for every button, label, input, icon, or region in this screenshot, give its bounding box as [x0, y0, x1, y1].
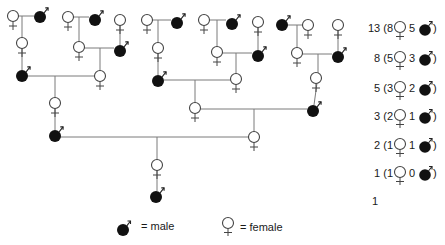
- count-row: 8 (5 3 ): [360, 46, 445, 70]
- close-paren: ): [433, 21, 437, 35]
- female-node: [249, 132, 260, 152]
- close-paren: ): [433, 138, 437, 152]
- female-icon: [17, 38, 28, 49]
- female-node: [333, 20, 344, 40]
- female-icon: [394, 16, 406, 40]
- count-males: 1: [409, 138, 415, 152]
- female-node: [212, 47, 223, 67]
- female-icon: [333, 20, 344, 31]
- female-icon: [249, 132, 260, 143]
- male-icon: [418, 161, 434, 185]
- female-icon: [394, 46, 406, 70]
- count-row: 5 (3 2 ): [360, 76, 445, 100]
- male-icon: [418, 16, 434, 40]
- male-node: [152, 72, 166, 87]
- male-node: [252, 47, 266, 62]
- legend-female-icon: [221, 215, 235, 239]
- individuals: [8, 8, 347, 203]
- count-total-and-females: 5 (3: [374, 81, 393, 95]
- count-total-and-females: 13 (8: [368, 21, 393, 35]
- female-icon: [8, 11, 19, 22]
- count-row: 1 (1 0 ): [360, 161, 445, 185]
- connector-lines: [18, 16, 338, 191]
- male-node: [89, 11, 103, 26]
- count-males: 2: [409, 81, 415, 95]
- female-node: [8, 11, 19, 31]
- female-icon: [311, 73, 322, 84]
- legend-female-label: = female: [240, 220, 283, 234]
- male-node: [49, 127, 63, 142]
- count-males: 0: [409, 166, 415, 180]
- female-node: [253, 17, 264, 37]
- female-icon: [394, 76, 406, 100]
- count-row: 2 (1 1 ): [360, 133, 445, 157]
- female-icon: [199, 15, 210, 26]
- male-node: [332, 48, 346, 63]
- final-count: 1: [372, 194, 378, 208]
- female-node: [74, 42, 85, 62]
- female-node: [153, 43, 164, 63]
- female-icon: [303, 20, 314, 31]
- female-icon: [74, 42, 85, 53]
- count-total-and-females: 3 (2: [374, 109, 393, 123]
- female-node: [142, 15, 153, 35]
- count-total-and-females: 2 (1: [374, 138, 393, 152]
- female-icon: [231, 74, 242, 85]
- female-node: [17, 38, 28, 58]
- female-node: [199, 15, 210, 35]
- male-icon: [418, 133, 434, 157]
- female-icon: [190, 103, 201, 114]
- female-icon: [115, 15, 126, 26]
- female-icon: [394, 161, 406, 185]
- female-node: [95, 71, 106, 91]
- female-node: [311, 73, 322, 93]
- female-node: [115, 15, 126, 35]
- male-node: [114, 42, 128, 57]
- female-node: [152, 160, 163, 180]
- female-icon: [142, 15, 153, 26]
- male-node: [34, 8, 48, 23]
- female-icon: [292, 48, 303, 59]
- female-icon: [212, 47, 223, 58]
- pedigree-diagram: 13 (8 5 ) 8 (5 3 ) 5 (3 2 ) 3 (2 1 ) 2 (…: [0, 0, 445, 245]
- close-paren: ): [433, 51, 437, 65]
- close-paren: ): [433, 166, 437, 180]
- count-total-and-females: 8 (5: [374, 51, 393, 65]
- count-row: 3 (2 1 ): [360, 104, 445, 128]
- count-males: 3: [409, 51, 415, 65]
- male-node: [171, 14, 185, 29]
- female-node: [292, 48, 303, 68]
- count-males: 1: [409, 109, 415, 123]
- female-node: [50, 98, 61, 118]
- male-node: [226, 15, 240, 30]
- female-icon: [152, 160, 163, 171]
- legend-male-label: = male: [141, 219, 174, 233]
- female-node: [63, 12, 74, 32]
- female-icon: [95, 71, 106, 82]
- female-icon: [63, 12, 74, 23]
- close-paren: ): [433, 81, 437, 95]
- male-node: [16, 67, 30, 82]
- close-paren: ): [433, 109, 437, 123]
- male-icon: [418, 104, 434, 128]
- female-node: [303, 20, 314, 40]
- legend-male-icon: [115, 216, 133, 238]
- female-icon: [394, 133, 406, 157]
- female-icon: [394, 104, 406, 128]
- female-node: [231, 74, 242, 94]
- female-icon: [153, 43, 164, 54]
- female-node: [190, 103, 201, 123]
- male-icon: [418, 76, 434, 100]
- count-total-and-females: 1 (1: [374, 166, 393, 180]
- male-node: [276, 16, 290, 31]
- female-icon: [50, 98, 61, 109]
- count-males: 5: [409, 21, 415, 35]
- female-icon: [253, 17, 264, 28]
- male-icon: [418, 46, 434, 70]
- count-row: 13 (8 5 ): [360, 16, 445, 40]
